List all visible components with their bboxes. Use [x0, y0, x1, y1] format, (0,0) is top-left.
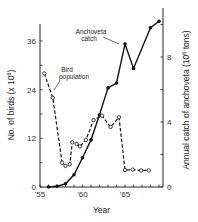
bird-marker [51, 96, 54, 99]
series-layer [43, 19, 161, 188]
x-tick-label: '55 [35, 190, 46, 199]
right-tick-label: 4 [167, 118, 172, 127]
catch-marker [157, 19, 161, 23]
bird-marker [147, 169, 150, 172]
catch-marker [81, 156, 85, 160]
bird-marker [75, 142, 78, 145]
left-tick-label: 12 [27, 134, 36, 143]
bird-population-annotation: population [59, 73, 89, 81]
left-tick-label: 0 [32, 183, 37, 192]
x-axis-title: Year [93, 205, 110, 215]
catch-marker [115, 81, 119, 85]
right-tick-label: 8 [167, 53, 172, 62]
bird-marker [131, 168, 134, 171]
left-tick-label: 36 [27, 37, 36, 46]
bird-marker [100, 114, 103, 117]
right-tick-label: 0 [167, 183, 172, 192]
bird-marker [84, 138, 87, 141]
anchoveta-catch-annotation: catch [81, 35, 97, 42]
bird-marker [71, 141, 74, 144]
bird-population-annotation: Bird [61, 66, 73, 73]
bird-marker [92, 118, 95, 121]
bird-marker [68, 163, 71, 166]
x-tick-label: '65 [120, 190, 131, 199]
catch-marker [149, 26, 153, 30]
right-axis-title: Annual catch of anchoveta (106 tons) [181, 30, 191, 169]
catch-marker [89, 138, 93, 142]
catch-marker [64, 182, 68, 186]
catch-marker [55, 184, 59, 188]
bird-marker [43, 72, 46, 75]
catch-marker [106, 86, 110, 90]
x-tick-label: '60 [77, 190, 88, 199]
anchoveta-catch-leader [103, 37, 119, 44]
anchoveta-catch-annotation: Anchoveta [76, 28, 107, 35]
bird-marker [64, 164, 67, 167]
bird-marker [139, 169, 142, 172]
catch-marker [47, 185, 51, 189]
bird-marker [123, 168, 126, 171]
bird-population-leader [54, 81, 60, 90]
catch-marker [132, 67, 136, 71]
bird-marker [109, 125, 112, 128]
catch-marker [72, 173, 76, 177]
catch-marker [123, 42, 127, 46]
bird-marker [60, 161, 63, 164]
left-tick-label: 24 [27, 86, 36, 95]
anchoveta-catch-line [49, 21, 160, 187]
bird-marker [117, 116, 120, 119]
left-axis-title: No. of birds (x 106) [6, 70, 16, 141]
chart: '55'60'650122436048YearNo. of birds (x 1… [0, 0, 198, 222]
bird-marker [78, 145, 81, 148]
